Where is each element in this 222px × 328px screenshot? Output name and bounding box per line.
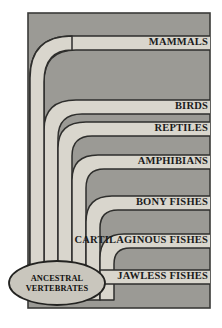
tip-label-mammals: MAMMALS bbox=[149, 36, 208, 48]
phylogenetic-tree-figure: MAMMALS BIRDS REPTILES AMPHIBIANS BONY F… bbox=[0, 0, 222, 328]
tip-label-amphibians: AMPHIBIANS bbox=[138, 155, 208, 167]
tip-label-birds: BIRDS bbox=[175, 100, 208, 112]
root-node-label: ANCESTRAL VERTEBRATES bbox=[9, 274, 105, 293]
tip-label-bony-fishes: BONY FISHES bbox=[136, 196, 208, 208]
root-node-label-line2: VERTEBRATES bbox=[9, 284, 105, 294]
tip-label-jawless-fishes: JAWLESS FISHES bbox=[117, 270, 208, 282]
tip-label-reptiles: REPTILES bbox=[154, 122, 208, 134]
root-node-label-line1: ANCESTRAL bbox=[9, 274, 105, 284]
tip-label-cartilaginous-fishes: CARTILAGINOUS FISHES bbox=[75, 234, 208, 246]
